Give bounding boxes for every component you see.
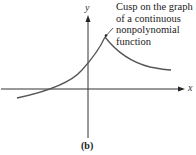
annotation-line-3: nonpolynomial — [116, 24, 193, 36]
x-axis-arrowhead — [178, 87, 185, 92]
figure-caption: (b) — [81, 140, 93, 151]
cusp-point — [105, 34, 108, 37]
cusp-annotation: Cusp on the graph of a continuous nonpol… — [116, 1, 193, 47]
annotation-line-2: of a continuous — [116, 13, 193, 25]
annotation-line-1: Cusp on the graph — [116, 1, 193, 13]
y-axis-label: y — [85, 2, 89, 13]
x-axis-label: x — [188, 82, 192, 93]
annotation-line-4: function — [116, 36, 193, 48]
y-axis-arrowhead — [86, 15, 91, 22]
